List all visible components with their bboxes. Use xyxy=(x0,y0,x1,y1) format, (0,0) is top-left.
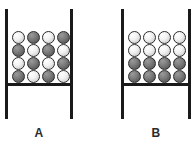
ball-light xyxy=(42,31,55,44)
ball-light xyxy=(143,31,156,44)
ball-dark xyxy=(158,57,171,70)
ball-dark xyxy=(143,57,156,70)
ball-dark xyxy=(143,70,156,83)
ball-dark xyxy=(12,44,25,57)
ball-light xyxy=(128,31,141,44)
ball-light xyxy=(173,44,186,57)
container-a-left-wall xyxy=(5,9,8,119)
ball-dark xyxy=(57,31,70,44)
container-a-label: A xyxy=(5,126,73,140)
ball-dark xyxy=(42,70,55,83)
ball-light xyxy=(12,57,25,70)
ball-dark xyxy=(128,57,141,70)
ball-light xyxy=(57,70,70,83)
ball-light xyxy=(143,44,156,57)
ball-light xyxy=(12,31,25,44)
container-b-shelf xyxy=(121,83,191,86)
ball-light xyxy=(27,70,40,83)
ball-dark xyxy=(158,70,171,83)
container-b: B xyxy=(121,0,191,146)
ball-dark xyxy=(173,70,186,83)
container-b-label: B xyxy=(121,126,191,140)
ball-light xyxy=(158,31,171,44)
ball-light xyxy=(42,57,55,70)
ball-light xyxy=(57,44,70,57)
ball-light xyxy=(173,31,186,44)
two-container-ball-arrangement-figure: AB xyxy=(0,0,194,146)
container-a: A xyxy=(5,0,73,146)
container-b-left-wall xyxy=(121,9,124,119)
ball-light xyxy=(27,44,40,57)
container-a-right-wall xyxy=(70,9,73,119)
ball-dark xyxy=(173,57,186,70)
ball-dark xyxy=(12,70,25,83)
ball-dark xyxy=(27,31,40,44)
ball-dark xyxy=(27,57,40,70)
ball-light xyxy=(128,44,141,57)
container-a-shelf xyxy=(5,83,73,86)
ball-dark xyxy=(42,44,55,57)
ball-dark xyxy=(128,70,141,83)
ball-dark xyxy=(57,57,70,70)
container-b-right-wall xyxy=(188,9,191,119)
ball-light xyxy=(158,44,171,57)
